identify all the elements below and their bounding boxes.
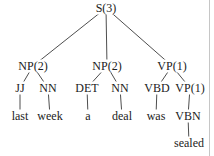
tree-node-vp-inner: VP(1) bbox=[174, 82, 205, 95]
tree-leaf-sealed: sealed bbox=[173, 137, 205, 150]
tree-node-vbd: VBD bbox=[143, 82, 170, 95]
tree-leaf-week: week bbox=[36, 110, 63, 123]
tree-node-s: S(3) bbox=[95, 2, 118, 15]
tree-node-nn-mid: NN bbox=[110, 82, 129, 95]
tree-node-vbn: VBN bbox=[174, 110, 201, 123]
tree-node-det: DET bbox=[74, 82, 99, 95]
tree-leaf-last: last bbox=[11, 110, 30, 123]
tree-node-vp: VP(1) bbox=[156, 60, 187, 73]
tree-node-jj: JJ bbox=[14, 82, 25, 95]
tree-leaf-was: was bbox=[146, 110, 167, 123]
tree-node-np-left: NP(2) bbox=[17, 60, 48, 73]
tree-leaf-a: a bbox=[84, 110, 91, 123]
figure-right-rule bbox=[209, 0, 210, 156]
tree-edges bbox=[0, 0, 214, 156]
tree-node-nn-left: NN bbox=[38, 82, 57, 95]
tree-node-np-mid: NP(2) bbox=[91, 60, 122, 73]
parse-tree-figure: S(3) NP(2) NP(2) VP(1) JJ NN DET NN VBD … bbox=[0, 0, 214, 156]
tree-leaf-deal: deal bbox=[111, 110, 133, 123]
